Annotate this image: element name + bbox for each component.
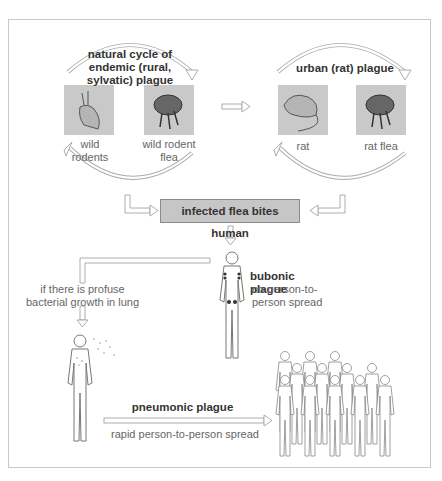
flea-icon: [356, 85, 406, 135]
endemic-cycle-title: natural cycle of: [80, 48, 180, 61]
rat-flea-picture: [356, 85, 406, 135]
pneumonic-human-figure: [62, 333, 132, 443]
pneumonic-plague-note: rapid person-to-person spread: [105, 428, 265, 441]
bubonic-plague-note: no person-to-: [252, 283, 332, 296]
bubonic-human-figure: [212, 250, 252, 360]
rabbit-icon: [64, 85, 114, 135]
rat-icon: [278, 85, 328, 135]
wild-rodent-picture: [64, 85, 114, 135]
branch-condition-label: if there is profuse: [20, 283, 145, 296]
rat-label: rat: [283, 140, 323, 153]
wild-rodent-flea-label: wild rodent: [134, 138, 204, 151]
urban-cycle-title: urban (rat) plague: [290, 62, 400, 75]
infected-flea-bites-human-box: infected flea bites human: [160, 199, 300, 223]
wild-rodents-label: wild: [60, 138, 120, 151]
rat-flea-label: rat flea: [356, 140, 406, 153]
wild-rodent-flea-picture: [144, 85, 194, 135]
flea-icon: [144, 85, 194, 135]
rat-picture: [278, 85, 328, 135]
pneumonic-plague-title: pneumonic plague: [120, 401, 245, 414]
crowd-of-humans: [275, 350, 435, 460]
